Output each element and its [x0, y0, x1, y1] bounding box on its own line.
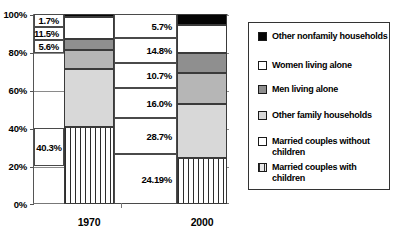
y-tick-label-20: 20%	[0, 161, 27, 172]
legend-label-men-living-alone: Men living alone	[272, 84, 390, 95]
legend-label-other-nonfamily-households: Other nonfamily households	[272, 31, 390, 42]
legend-item-men-living-alone[interactable]: Men living alone	[258, 84, 390, 95]
value-label-1970-women-living-alone: 11.5%	[34, 27, 64, 40]
y-tick-label-40: 40%	[0, 123, 27, 134]
value-label-1970-other-nonfamily-households: 1.7%	[34, 14, 64, 27]
segment-1970-women-living-alone[interactable]	[64, 17, 114, 39]
y-tick-label-80: 80%	[0, 47, 27, 58]
legend-swatch-light-gray-icon	[258, 111, 267, 120]
legend-item-married-couples-with-children[interactable]: Married couples with children	[258, 162, 390, 183]
legend-label-married-couples-with-children: Married couples with children	[272, 162, 390, 183]
legend-item-other-nonfamily-households[interactable]: Other nonfamily households	[258, 31, 390, 42]
value-label-2000-married-couples-without-children: 28.7%	[114, 118, 177, 154]
legend-item-other-family-households[interactable]: Other family households	[258, 110, 390, 121]
segment-2000-married-couples-with-children[interactable]	[177, 158, 227, 204]
value-label-2000-women-living-alone: 14.8%	[114, 38, 177, 63]
stacked-bar-chart: 100% 80% 60% 40% 20% 0%	[0, 0, 399, 248]
value-label-2000-other-family-households: 16.0%	[114, 88, 177, 118]
y-tick-mark-80	[30, 53, 34, 54]
value-label-1970-married-couples-with-children: 40.3%	[34, 128, 64, 166]
segment-1970-men-living-alone[interactable]	[64, 39, 114, 50]
legend-swatch-white-2-icon	[258, 137, 267, 146]
legend-label-other-family-households: Other family households	[272, 110, 390, 121]
segment-1970-married-couples-without-children[interactable]	[64, 69, 114, 128]
y-tick-mark-60	[30, 91, 34, 92]
y-tick-label-100: 100%	[0, 9, 27, 20]
bar-1970[interactable]	[64, 14, 114, 204]
legend-label-married-couples-without-children: Married couples without children	[272, 136, 390, 157]
y-tick-label-60: 60%	[0, 85, 27, 96]
y-tick-mark-20	[30, 167, 34, 168]
segment-2000-other-family-households[interactable]	[177, 73, 227, 103]
y-tick-label-0: 0%	[0, 199, 27, 210]
legend-item-women-living-alone[interactable]: Women living alone	[258, 60, 390, 71]
legend-swatch-black-icon	[258, 32, 267, 41]
segment-2000-women-living-alone[interactable]	[177, 25, 227, 53]
value-label-2000-other-nonfamily-households: 5.7%	[114, 14, 177, 38]
legend-swatch-white-icon	[258, 61, 267, 70]
segment-1970-married-couples-with-children[interactable]	[64, 127, 114, 204]
legend-label-women-living-alone: Women living alone	[272, 60, 390, 71]
x-tick-mark-mid	[121, 203, 122, 208]
legend-swatch-gray-striped-icon	[258, 163, 267, 172]
legend: Other nonfamily households Women living …	[248, 22, 390, 190]
bar-2000[interactable]	[177, 14, 227, 204]
x-tick-label-1970: 1970	[59, 216, 119, 228]
y-tick-mark-0	[30, 204, 34, 205]
legend-item-married-couples-without-children[interactable]: Married couples without children	[258, 136, 390, 157]
value-label-2000-men-living-alone: 10.7%	[114, 63, 177, 88]
segment-2000-married-couples-without-children[interactable]	[177, 104, 227, 159]
segment-2000-men-living-alone[interactable]	[177, 53, 227, 73]
x-tick-label-2000: 2000	[172, 216, 232, 228]
value-label-2000-married-couples-with-children: 24.19%	[114, 154, 177, 204]
legend-swatch-dark-gray-icon	[258, 85, 267, 94]
segment-2000-other-nonfamily-households[interactable]	[177, 14, 227, 25]
value-label-1970-men-living-alone: 5.6%	[34, 40, 64, 53]
segment-1970-other-family-households[interactable]	[64, 50, 114, 69]
